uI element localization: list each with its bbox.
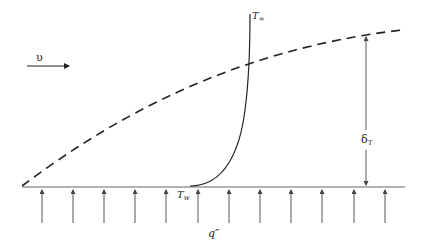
- t-infinity-sub: ∞: [259, 15, 265, 23]
- temperature-profile-curve: [190, 14, 250, 186]
- heat-flux-symbol: q″: [208, 227, 219, 240]
- t-infinity-label: T∞: [252, 11, 265, 23]
- t-wall-main: T: [177, 189, 184, 200]
- delta-main: δ: [361, 133, 368, 146]
- t-wall-label: Tw: [177, 190, 190, 202]
- delta-t-label: δT: [361, 134, 372, 147]
- heat-flux-arrows: [42, 190, 385, 223]
- boundary-layer-diagram: υ T∞ Tw δT q″: [0, 0, 425, 249]
- diagram-graphics: [0, 0, 425, 249]
- t-wall-sub: w: [184, 194, 190, 202]
- velocity-symbol: υ: [36, 51, 43, 64]
- velocity-label: υ: [36, 52, 43, 63]
- t-infinity-main: T: [252, 10, 259, 21]
- thermal-boundary-layer-edge: [22, 30, 402, 186]
- heat-flux-label: q″: [208, 228, 219, 239]
- delta-sub: T: [368, 139, 373, 147]
